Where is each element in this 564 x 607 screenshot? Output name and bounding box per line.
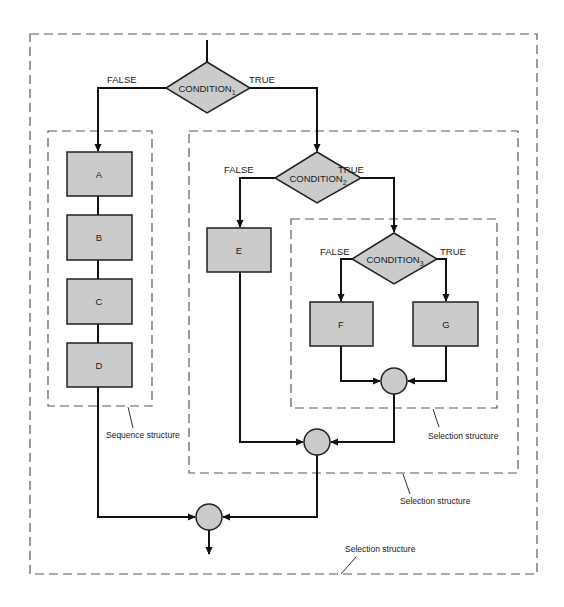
process-d-label: D [96,360,103,371]
process-g-label: G [442,319,449,330]
inner-selection-structure-label: Selection structure [428,431,499,441]
process-a-label: A [96,169,103,180]
join1-to-join2-path [331,394,394,442]
process-f-label: F [338,319,344,330]
join-circle-inner [381,368,407,394]
condition1-true-path [250,88,317,151]
flowchart-canvas: CONDITION1 CONDITION2 CONDITION3 FALSE T… [0,0,564,607]
g-to-join1-path [408,346,446,381]
middle-selection-structure-label: Selection structure [400,496,471,506]
condition3-false-path [341,259,352,301]
condition1-label: CONDITION1 [178,83,235,96]
process-c-label: C [96,296,103,307]
condition1-false-path [98,88,166,151]
condition3-false-label: FALSE [320,246,350,257]
condition3-true-label: TRUE [440,246,466,257]
sequence-leader-line [128,407,133,428]
e-to-join2-path [240,272,303,442]
join-circle-middle [304,429,330,455]
condition3-true-path [437,259,446,301]
middle-selection-leader-line [403,474,410,494]
inner-selection-leader-line [433,409,439,427]
outer-selection-structure-label: Selection structure [345,544,416,554]
process-e-label: E [236,245,242,256]
condition2-true-path [361,178,394,232]
condition1-false-label: FALSE [107,74,137,85]
condition2-false-label: FALSE [224,164,254,175]
condition1-true-label: TRUE [249,74,275,85]
join2-to-final-join-path [223,455,317,517]
outer-selection-leader-line [341,557,356,574]
f-to-join1-path [341,346,380,381]
condition2-false-path [240,178,275,227]
condition2-true-label: TRUE [338,164,364,175]
process-b-label: B [96,232,102,243]
sequence-structure-label: Sequence structure [106,430,180,440]
join-circle-outer [196,504,222,530]
condition3-label: CONDITION3 [366,254,423,267]
